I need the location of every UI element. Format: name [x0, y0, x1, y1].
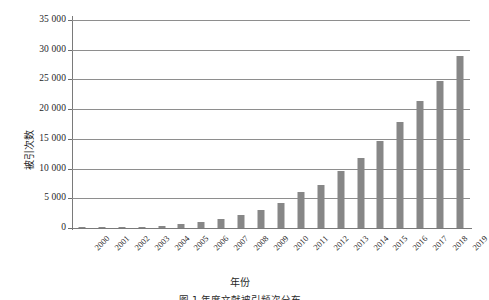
x-tick-label: 2003: [153, 234, 171, 252]
bar: [417, 101, 424, 228]
gridline: [72, 228, 470, 229]
bar-slot: [152, 20, 172, 228]
x-tick-label: 2019: [471, 234, 489, 252]
bar: [178, 224, 185, 228]
bar: [98, 227, 105, 228]
bar-slot: [251, 20, 271, 228]
bar: [118, 227, 125, 228]
bar: [397, 122, 404, 228]
bar-slot: [371, 20, 391, 228]
y-tick-label: 5 000: [44, 194, 66, 204]
bar-slot: [92, 20, 112, 228]
bar-series: [72, 20, 470, 228]
bar: [457, 56, 464, 228]
bar: [258, 210, 265, 228]
x-tick-label: 2008: [252, 234, 270, 252]
bar: [437, 81, 444, 228]
y-tick-label: 25 000: [39, 75, 66, 85]
x-tick-label: 2018: [451, 234, 469, 252]
bar-slot: [211, 20, 231, 228]
bar-slot: [72, 20, 92, 228]
bar: [337, 171, 344, 228]
bar-slot: [132, 20, 152, 228]
bar: [277, 203, 284, 228]
y-tick-label: 15 000: [39, 134, 66, 144]
x-axis-tick-labels: 2000200120022003200420052006200720082009…: [72, 230, 470, 270]
x-tick-label: 2011: [312, 234, 330, 252]
bar: [238, 215, 245, 228]
bar-slot: [311, 20, 331, 228]
bar-slot: [430, 20, 450, 228]
figure-caption: 图 1 年度文献被引频次分布: [0, 292, 480, 300]
x-tick-label: 2001: [113, 234, 131, 252]
x-tick-label: 2012: [332, 234, 350, 252]
bar-slot: [390, 20, 410, 228]
x-tick-label: 2000: [93, 234, 111, 252]
y-tick-label: 35 000: [39, 15, 66, 25]
x-tick-label: 2015: [391, 234, 409, 252]
bar: [297, 192, 304, 228]
bar: [78, 227, 85, 228]
bar: [357, 158, 364, 228]
bar-slot: [331, 20, 351, 228]
x-tick-label: 2017: [431, 234, 449, 252]
x-tick-label: 2002: [133, 234, 151, 252]
y-tick-label: 10 000: [39, 164, 66, 174]
x-tick-label: 2014: [372, 234, 390, 252]
bar-slot: [172, 20, 192, 228]
x-tick-label: 2007: [232, 234, 250, 252]
bar-slot: [291, 20, 311, 228]
bar-slot: [191, 20, 211, 228]
y-tick-label: 20 000: [39, 104, 66, 114]
bar: [377, 141, 384, 228]
bar-slot: [410, 20, 430, 228]
x-tick-label: 2010: [292, 234, 310, 252]
y-tick-mark: [68, 228, 72, 229]
bar-slot: [271, 20, 291, 228]
y-axis-title: 被引次数: [21, 130, 36, 170]
x-tick-label: 2013: [352, 234, 370, 252]
bar: [198, 222, 205, 228]
bar: [158, 226, 165, 228]
bar-slot: [450, 20, 470, 228]
bar-slot: [231, 20, 251, 228]
x-axis-title: 年份: [0, 274, 480, 289]
bar: [317, 185, 324, 228]
x-tick-label: 2016: [411, 234, 429, 252]
y-tick-label: 30 000: [39, 45, 66, 55]
x-tick-label: 2009: [272, 234, 290, 252]
x-tick-label: 2005: [192, 234, 210, 252]
bar-slot: [112, 20, 132, 228]
x-tick-label: 2006: [212, 234, 230, 252]
bar-slot: [351, 20, 371, 228]
x-tick-label: 2004: [173, 234, 191, 252]
plot-area: 05 00010 00015 00020 00025 00030 00035 0…: [72, 20, 470, 228]
bar: [218, 219, 225, 228]
y-tick-label: 0: [61, 223, 66, 233]
bar: [138, 227, 145, 228]
